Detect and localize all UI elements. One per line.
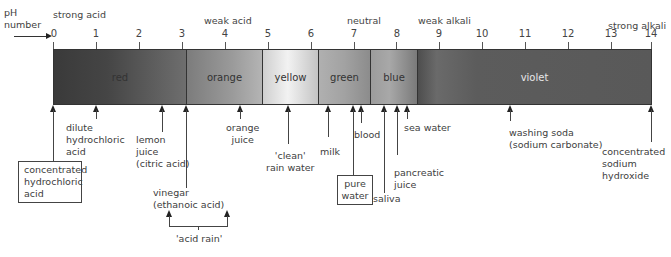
tick-label-2: 2: [136, 28, 142, 39]
band-label-red: red: [112, 72, 128, 83]
band-green: green: [319, 50, 371, 104]
ph-colour-bar: red orange yellow green blue violet: [53, 49, 652, 105]
tick-mark: [525, 42, 526, 49]
pointer-line: [651, 110, 652, 142]
band-label-blue: blue: [383, 72, 405, 83]
label-orange-juice: orange juice: [226, 122, 259, 146]
pointer-line: [162, 110, 163, 132]
label-saliva: saliva: [373, 193, 401, 205]
label-vinegar: vinegar (ethanoic acid): [153, 187, 224, 211]
band-yellow: yellow: [263, 50, 319, 104]
tick-label-14: 14: [645, 28, 658, 39]
tick-label-11: 11: [519, 28, 532, 39]
pointer-line: [53, 110, 54, 161]
tick-mark: [311, 42, 312, 49]
tick-label-12: 12: [562, 28, 575, 39]
header-weak-acid: weak acid: [204, 15, 252, 26]
axis-pointer-line: [14, 36, 47, 37]
label-milk: milk: [320, 146, 340, 158]
ph-axis-label-line1: pH: [4, 7, 17, 19]
header-weak-alkali: weak alkali: [418, 15, 471, 26]
tick-mark: [268, 42, 269, 49]
pointer-line: [288, 110, 289, 144]
tick-mark: [439, 42, 440, 49]
label-concentrated-naoh: concentrated sodium hydroxide: [602, 146, 665, 182]
pointer-line: [240, 110, 241, 119]
band-orange: orange: [187, 50, 263, 104]
ph-axis-label-line2: number: [4, 19, 41, 31]
pointer-line: [384, 110, 385, 193]
tick-label-0: 0: [51, 28, 57, 39]
tick-label-7: 7: [351, 28, 357, 39]
tick-mark: [354, 42, 355, 49]
pointer-line: [361, 110, 362, 123]
tick-mark: [53, 42, 54, 49]
label-acid-rain: 'acid rain': [176, 233, 222, 245]
tick-label-6: 6: [308, 28, 314, 39]
pointer-line: [397, 110, 398, 155]
tick-mark: [482, 42, 483, 49]
label-clean-rain-water: 'clean' rain water: [266, 150, 314, 174]
tick-label-5: 5: [265, 28, 271, 39]
tick-mark: [611, 42, 612, 49]
bracket-right-line: [227, 216, 228, 226]
label-pancreatic-juice: pancreatic juice: [394, 167, 444, 191]
pointer-line: [353, 110, 354, 175]
band-blue: blue: [371, 50, 418, 104]
band-violet: violet: [418, 50, 651, 104]
band-label-orange: orange: [207, 72, 242, 83]
band-label-yellow: yellow: [275, 72, 307, 83]
bracket-stem-line: [198, 226, 199, 230]
tick-mark: [182, 42, 183, 49]
tick-mark: [651, 42, 652, 49]
label-lemon-juice: lemon juice (citric acid): [136, 134, 190, 170]
pointer-line: [510, 110, 511, 121]
band-label-green: green: [330, 72, 359, 83]
bracket-left-line: [169, 216, 170, 226]
header-strong-acid: strong acid: [53, 9, 106, 20]
pointer-line: [328, 110, 329, 137]
tick-mark: [568, 42, 569, 49]
tick-mark: [96, 42, 97, 49]
tick-label-3: 3: [179, 28, 185, 39]
tick-label-10: 10: [476, 28, 489, 39]
tick-label-1: 1: [93, 28, 99, 39]
band-red: red: [54, 50, 187, 104]
label-concentrated-hcl: concentrated hydrochloric acid: [18, 161, 82, 203]
pointer-line: [96, 110, 97, 119]
tick-label-4: 4: [222, 28, 228, 39]
band-label-violet: violet: [521, 72, 549, 83]
tick-label-13: 13: [605, 28, 618, 39]
tick-mark: [225, 42, 226, 49]
tick-label-9: 9: [436, 28, 442, 39]
tick-mark: [396, 42, 397, 49]
label-blood: blood: [354, 129, 380, 141]
pointer-line: [407, 110, 408, 119]
label-sea-water: sea water: [404, 122, 451, 134]
label-washing-soda: washing soda (sodium carbonate): [509, 127, 602, 151]
label-dilute-hcl: dilute hydrochloric acid: [66, 122, 125, 158]
tick-label-8: 8: [394, 28, 400, 39]
tick-mark: [139, 42, 140, 49]
header-neutral: neutral: [347, 15, 381, 26]
label-pure-water: pure water: [337, 175, 373, 205]
